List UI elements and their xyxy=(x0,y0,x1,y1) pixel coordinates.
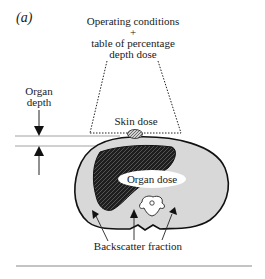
backscatter-label: Backscatter fraction xyxy=(88,241,188,252)
source-line-4: depth dose xyxy=(70,49,196,60)
organ-depth-arrows xyxy=(34,110,44,175)
panel-label: (a) xyxy=(16,10,32,26)
organ-dose-label: Organ dose xyxy=(118,174,186,185)
skin-dosimeter xyxy=(128,130,143,139)
organ-depth-line-2: depth xyxy=(19,97,59,108)
skin-dose-label: Skin dose xyxy=(106,116,166,127)
